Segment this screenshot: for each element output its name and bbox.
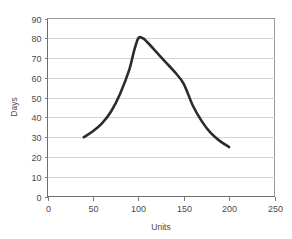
y-tick-label: 40	[31, 113, 41, 123]
x-tick-label: 200	[222, 204, 237, 214]
x-tick-label: 100	[131, 204, 146, 214]
plot-area	[48, 19, 275, 197]
x-tick-label: 0	[46, 204, 51, 214]
y-tick-label: 0	[36, 193, 41, 203]
y-tick-label: 70	[31, 54, 41, 64]
x-tick-label: 50	[88, 204, 98, 214]
y-tick-label: 50	[31, 94, 41, 104]
y-tick-label: 10	[31, 173, 41, 183]
y-tick-group: 0102030405060708090	[31, 15, 47, 203]
x-tick-group: 050100150200250	[46, 197, 283, 214]
y-tick-label: 80	[31, 34, 41, 44]
chart-container: 0102030405060708090 050100150200250 Days…	[0, 0, 292, 239]
line-chart: 0102030405060708090 050100150200250 Days…	[0, 0, 292, 239]
y-axis-title: Days	[9, 97, 19, 116]
x-tick-label: 150	[177, 204, 192, 214]
x-tick-label: 250	[268, 204, 283, 214]
y-tick-label: 30	[31, 133, 41, 143]
y-tick-label: 90	[31, 15, 41, 25]
x-axis-title: Units	[151, 222, 170, 232]
y-tick-label: 60	[31, 74, 41, 84]
y-tick-label: 20	[31, 153, 41, 163]
